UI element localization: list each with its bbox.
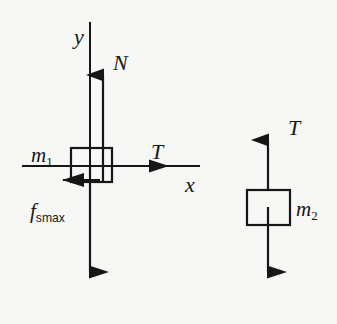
friction-force-label: fsmax	[30, 201, 65, 224]
mass-label-m2-symbol: m	[296, 197, 311, 221]
friction-force-label-subscript: smax	[36, 211, 65, 225]
free-body-diagram: y N T x m1 fsmax T m2	[0, 0, 337, 324]
x-axis-label: x	[185, 174, 195, 196]
mass-label-m1-symbol: m	[31, 143, 46, 167]
mass-label-m2-subscript: 2	[311, 208, 318, 223]
mass-label-m2: m2	[296, 199, 318, 222]
mass-label-m1-subscript: 1	[46, 154, 53, 169]
mass-label-m1: m1	[31, 145, 53, 168]
normal-force-label: N	[113, 52, 128, 74]
tension-label-m1: T	[151, 141, 163, 163]
tension-label-m2: T	[288, 117, 300, 139]
y-axis-label: y	[74, 26, 84, 48]
